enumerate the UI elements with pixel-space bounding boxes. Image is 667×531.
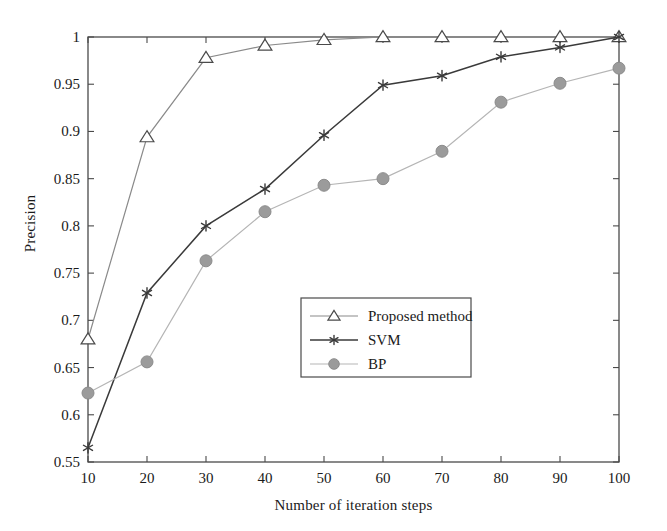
y-tick-label: 0.7 [20,312,80,329]
x-tick-label: 20 [140,470,155,487]
data-series-group [81,31,626,453]
series-svm [83,32,623,453]
plot-area: Proposed methodSVMBP [0,0,667,531]
x-tick-label: 50 [317,470,332,487]
y-tick-label: 0.55 [20,454,80,471]
x-tick-label: 30 [199,470,214,487]
x-tick-label: 100 [608,470,631,487]
y-tick-label: 0.75 [20,265,80,282]
legend: Proposed methodSVMBP [301,298,473,377]
legend-label: Proposed method [368,308,473,324]
y-tick-label: 0.85 [20,170,80,187]
y-tick-label: 0.6 [20,406,80,423]
series-proposed-method [81,31,626,344]
x-tick-label: 70 [435,470,450,487]
legend-label: SVM [368,332,401,348]
y-tick-label: 0.9 [20,123,80,140]
legend-label: BP [368,356,386,372]
axis-ticks [88,37,619,462]
x-tick-label: 80 [494,470,509,487]
x-tick-label: 10 [81,470,96,487]
x-tick-label: 40 [258,470,273,487]
y-tick-label: 1 [20,29,80,46]
precision-vs-iterations-chart: Precision Number of iteration steps 0.55… [0,0,667,531]
y-tick-label: 0.95 [20,76,80,93]
y-tick-label: 0.65 [20,359,80,376]
x-tick-label: 90 [553,470,568,487]
x-tick-label: 60 [376,470,391,487]
x-axis-label: Number of iteration steps [88,497,619,514]
y-tick-label: 0.8 [20,217,80,234]
axes-frame [88,37,619,462]
